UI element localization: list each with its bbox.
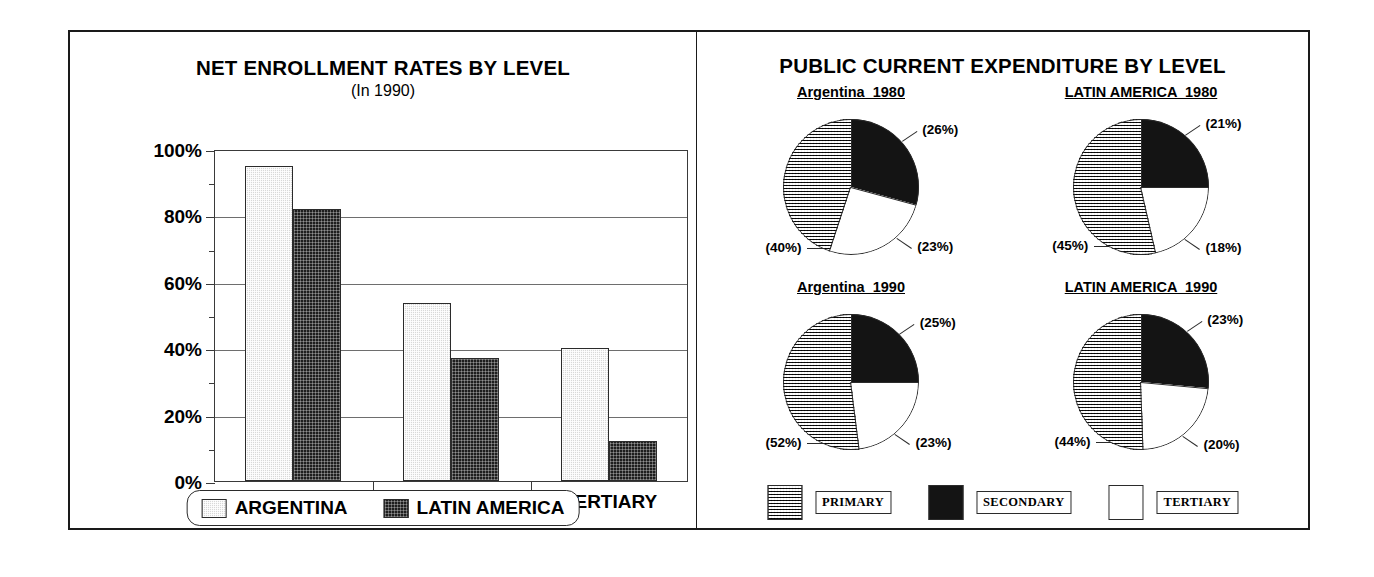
legend-entry-latin-america: LATIN AMERICA — [384, 497, 565, 519]
y-tick-major — [206, 151, 215, 152]
pie-slice-edge — [851, 382, 919, 383]
pie-disc — [1073, 119, 1209, 255]
pie-chart-title: PUBLIC CURRENT EXPENDITURE BY LEVEL — [697, 54, 1308, 78]
bar-primary-argentina — [245, 166, 293, 481]
y-tick-major — [206, 417, 215, 418]
pie-disc — [783, 119, 919, 255]
pie-legend-label-secondary: SECONDARY — [976, 491, 1071, 514]
y-tick-minor — [209, 450, 215, 451]
bar-primary-latin-america — [293, 209, 341, 481]
legend-label: LATIN AMERICA — [417, 497, 565, 519]
pie-pct-label-primary: (40%) — [765, 240, 801, 255]
pie-slice-edge — [851, 119, 852, 187]
pie-label-leader — [808, 443, 823, 444]
pie-pct-label-secondary: (25%) — [920, 315, 956, 330]
pie-legend-swatch-secondary-icon — [928, 485, 963, 520]
pie-slice-edge — [1141, 119, 1142, 187]
pie-pct-label-primary: (52%) — [765, 435, 801, 450]
bar-chart-subtitle: (In 1990) — [70, 82, 696, 100]
y-axis-label: 100% — [153, 140, 202, 162]
legend-label: ARGENTINA — [235, 497, 348, 519]
pie-pct-label-tertiary: (18%) — [1205, 240, 1241, 255]
pie-chart-legend: PRIMARYSECONDARYTERTIARY — [767, 485, 1238, 520]
bar-chart-legend: ARGENTINALATIN AMERICA — [187, 490, 580, 526]
pie-label-leader — [1096, 442, 1111, 443]
panel-public-expenditure: PUBLIC CURRENT EXPENDITURE BY LEVEL Arge… — [696, 30, 1310, 530]
bar-chart-title: NET ENROLLMENT RATES BY LEVEL — [70, 56, 696, 80]
y-tick-minor — [209, 251, 215, 252]
y-axis-label: 60% — [164, 273, 202, 295]
pie-pct-label-secondary: (21%) — [1205, 116, 1241, 131]
y-tick-minor — [209, 317, 215, 318]
bar-tertiary-argentina — [561, 348, 609, 481]
pie-legend-swatch-primary-icon — [767, 485, 802, 520]
pie-caption-2: LATIN AMERICA 1980 — [1001, 84, 1281, 100]
pie-caption-1: Argentina 1980 — [711, 84, 991, 100]
pie-pct-label-secondary: (23%) — [1207, 312, 1243, 327]
pie-legend-swatch-tertiary-icon — [1109, 485, 1144, 520]
legend-entry-argentina: ARGENTINA — [202, 497, 348, 519]
y-tick-major — [206, 350, 215, 351]
pie-legend-label-primary: PRIMARY — [815, 491, 891, 514]
bar-secondary-argentina — [403, 303, 451, 481]
pie-caption-3: Argentina 1990 — [711, 279, 991, 295]
y-tick-minor — [209, 383, 215, 384]
y-axis-label: 20% — [164, 406, 202, 428]
pie-pct-label-primary: (44%) — [1054, 434, 1090, 449]
pie-label-leader — [808, 248, 823, 249]
pie-legend-label-tertiary: TERTIARY — [1157, 491, 1239, 514]
bar-tertiary-latin-america — [609, 441, 657, 481]
pie-label-leader — [1094, 246, 1109, 247]
x-group-separator — [373, 481, 374, 490]
bar-secondary-latin-america — [451, 358, 499, 481]
pie-slice-edge — [851, 314, 852, 382]
y-tick-minor — [209, 184, 215, 185]
pie-pct-label-tertiary: (23%) — [917, 239, 953, 254]
legend-swatch-icon — [202, 499, 227, 518]
y-axis-label: 80% — [164, 206, 202, 228]
pie-slice-edge — [1141, 314, 1142, 382]
bar-plot-area: 0%20%40%60%80%100% PRIMARYSECONDARYTERTI… — [214, 150, 688, 482]
pie-pct-label-secondary: (26%) — [922, 122, 958, 137]
pie-slice-edge — [1141, 187, 1209, 188]
y-tick-major — [206, 217, 215, 218]
pie-caption-4: LATIN AMERICA 1990 — [1001, 279, 1281, 295]
y-tick-major — [206, 284, 215, 285]
pie-pct-label-primary: (45%) — [1052, 238, 1088, 253]
pie-pct-label-tertiary: (23%) — [915, 435, 951, 450]
figure-root: NET ENROLLMENT RATES BY LEVEL (In 1990) … — [0, 0, 1374, 577]
pie-pct-label-tertiary: (20%) — [1204, 437, 1240, 452]
y-axis-label: 40% — [164, 339, 202, 361]
legend-swatch-icon — [384, 499, 409, 518]
y-tick-major — [206, 483, 215, 484]
x-group-separator — [531, 481, 532, 490]
panel-net-enrollment: NET ENROLLMENT RATES BY LEVEL (In 1990) … — [68, 30, 697, 530]
pie-disc — [1073, 314, 1209, 450]
